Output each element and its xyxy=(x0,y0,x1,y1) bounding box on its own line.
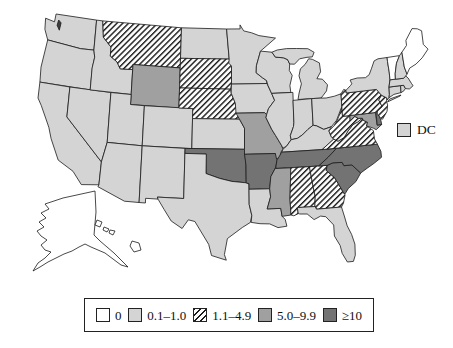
dc-swatch xyxy=(397,123,411,137)
state-HI-island-1 xyxy=(95,220,102,227)
legend-label-zero: 0 xyxy=(115,309,122,322)
state-HI-island-4 xyxy=(130,241,141,252)
dc-legend-item: DC xyxy=(397,122,436,138)
legend-swatch-low xyxy=(128,308,142,322)
legend: 00.1–1.01.1–4.95.0–9.9≥10 xyxy=(84,298,374,332)
state-KS xyxy=(192,119,245,150)
legend-item-highest: ≥10 xyxy=(323,308,362,322)
legend-item-high: 5.0–9.9 xyxy=(258,308,316,322)
legend-item-low: 0.1–1.0 xyxy=(128,308,186,322)
states-layer xyxy=(33,14,428,271)
legend-item-zero: 0 xyxy=(96,308,122,322)
state-HI-island-3 xyxy=(109,230,115,235)
state-AZ xyxy=(98,142,142,202)
state-CO xyxy=(142,106,193,149)
state-WY xyxy=(131,65,181,109)
state-PA xyxy=(341,89,382,116)
legend-swatch-high xyxy=(258,308,272,322)
state-HI-island-2 xyxy=(103,227,109,232)
legend-label-low: 0.1–1.0 xyxy=(147,309,186,322)
legend-label-mid: 1.1–4.9 xyxy=(212,309,251,322)
legend-item-mid: 1.1–4.9 xyxy=(193,308,251,322)
legend-label-high: 5.0–9.9 xyxy=(277,309,316,322)
legend-swatch-zero xyxy=(96,308,110,322)
legend-label-highest: ≥10 xyxy=(342,309,362,322)
dc-label: DC xyxy=(417,122,436,138)
state-SD xyxy=(180,58,232,89)
legend-swatch-highest xyxy=(323,308,337,322)
us-choropleth-map xyxy=(0,0,453,348)
state-ND xyxy=(181,28,230,59)
state-ME xyxy=(402,29,428,75)
state-FL xyxy=(297,207,355,263)
state-NM xyxy=(139,146,185,203)
legend-swatch-mid xyxy=(193,308,207,322)
